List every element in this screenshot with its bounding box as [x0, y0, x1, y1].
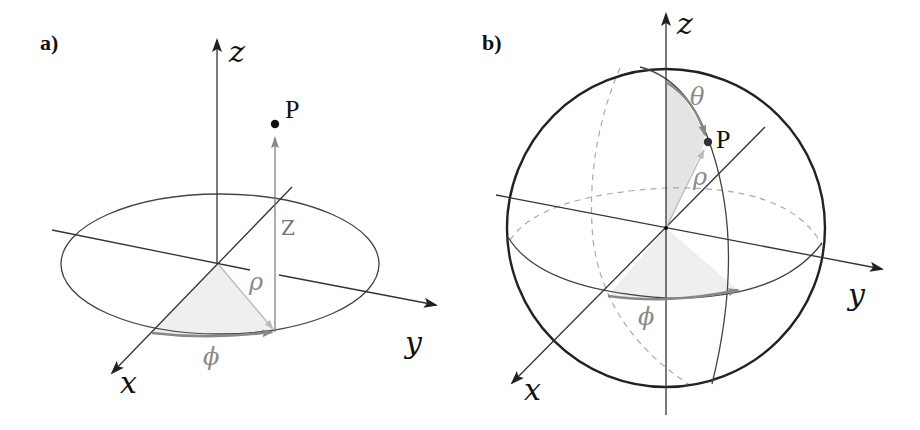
- point-p-label: P: [716, 125, 730, 154]
- phi-label: ϕ: [638, 303, 654, 331]
- panel-a-label: a): [40, 30, 58, 55]
- y-axis: [279, 275, 436, 305]
- rho-label: ρ: [248, 268, 263, 296]
- coordinate-systems-figure: a) z y x P Z ρ ϕ b): [0, 0, 920, 430]
- point-p-label: P: [285, 95, 299, 124]
- y-axis-back: [52, 230, 250, 270]
- origin-dot: [664, 226, 668, 230]
- panel-a-cylindrical: a) z y x P Z ρ ϕ: [40, 30, 436, 400]
- rho-label: ρ: [692, 163, 707, 191]
- point-p-dot: [271, 120, 279, 128]
- z-axis-label: z: [676, 6, 693, 41]
- x-axis-label: x: [524, 372, 541, 407]
- x-axis-label: x: [120, 365, 137, 400]
- phi-sector-shade: [607, 228, 738, 299]
- z-axis-label: z: [228, 34, 245, 69]
- x-axis: [112, 187, 292, 373]
- z-coordinate-label: Z: [281, 216, 295, 240]
- point-p-dot: [704, 138, 712, 146]
- panel-b-spherical: b) z y x P: [482, 6, 882, 415]
- x-axis: [512, 127, 765, 383]
- panel-b-label: b): [482, 30, 502, 55]
- y-axis-label: y: [403, 325, 423, 360]
- phi-label: ϕ: [203, 343, 219, 371]
- theta-label: θ: [690, 83, 705, 111]
- y-axis-label: y: [846, 277, 866, 312]
